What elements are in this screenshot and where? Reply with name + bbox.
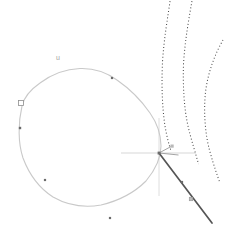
plot-svg: u — [0, 0, 227, 225]
closed-loop-curve — [19, 68, 161, 206]
marker-ray-node — [189, 197, 192, 200]
marker-loop-left-node — [19, 101, 24, 106]
marker-interior-upper-right — [111, 77, 113, 79]
marker-interior-lower-left — [44, 179, 46, 181]
point-markers-group — [19, 77, 193, 219]
dotted-curve-middle — [183, 0, 198, 164]
marker-below-loop — [109, 217, 111, 219]
marker-loop-left-lower — [19, 127, 21, 129]
dotted-curve-left — [162, 0, 171, 151]
dotted-curve-right — [205, 40, 223, 183]
marker-vector-tip — [171, 145, 174, 148]
marker-ray-mid — [181, 181, 183, 183]
u-label-text: u — [56, 54, 60, 61]
thick-diagonal-ray — [159, 153, 212, 223]
u-glyph-label: u — [56, 54, 60, 61]
plot-canvas: u — [0, 0, 227, 225]
marker-origin-node — [158, 152, 161, 155]
dotted-curves-group — [162, 0, 223, 183]
vector-arms-group — [159, 146, 179, 155]
